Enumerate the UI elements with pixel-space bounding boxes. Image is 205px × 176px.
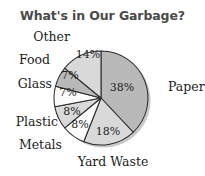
- slice-label-paper: Paper: [168, 81, 205, 94]
- slice-label-food: Food: [19, 54, 50, 67]
- slice-percent-paper: 38%: [110, 82, 134, 93]
- slice-label-metals: Metals: [19, 139, 62, 152]
- slice-percent-metals: 8%: [71, 119, 88, 130]
- slice-label-plastic: Plastic: [16, 116, 58, 129]
- slice-percent-food: 7%: [61, 70, 78, 81]
- slice-label-glass: Glass: [18, 78, 52, 91]
- slice-label-yard-waste: Yard Waste: [78, 156, 149, 169]
- slice-label-other: Other: [33, 31, 70, 44]
- pie-chart-figure: What's in Our Garbage? 38%18%8%8%7%7%14%…: [0, 0, 205, 176]
- slice-percent-yard-waste: 18%: [96, 126, 120, 137]
- slice-percent-other: 14%: [76, 49, 100, 60]
- slice-percent-plastic: 8%: [63, 106, 80, 117]
- slice-percent-glass: 7%: [59, 87, 76, 98]
